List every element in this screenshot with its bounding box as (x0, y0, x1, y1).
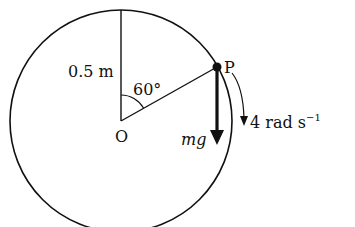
point-label-p: P (224, 58, 235, 77)
angular-velocity-label: 4 rad s−1 (250, 112, 321, 132)
angle-label: 60° (133, 80, 161, 99)
rotation-arrow-curve (232, 73, 244, 118)
rotation-arrow-head (240, 116, 248, 126)
angular-velocity-exponent: −1 (306, 112, 321, 123)
center-label-o: O (115, 127, 128, 146)
mg-arrow-head (210, 130, 224, 145)
angular-velocity-value: 4 rad s (250, 113, 306, 132)
radius-label: 0.5 m (68, 62, 114, 81)
force-label-mg: mg (181, 130, 206, 149)
circular-motion-diagram: 0.5 m 60° O P mg 4 rad s−1 (0, 0, 355, 227)
